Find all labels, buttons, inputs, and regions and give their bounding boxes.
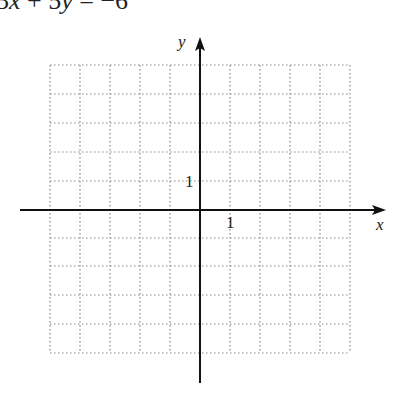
y-axis-label: y bbox=[178, 32, 186, 52]
coordinate-grid bbox=[0, 0, 413, 394]
y-tick-label: 1 bbox=[185, 172, 194, 192]
x-axis-label: x bbox=[376, 215, 384, 235]
x-tick-label: 1 bbox=[226, 213, 235, 233]
axes bbox=[20, 47, 376, 383]
